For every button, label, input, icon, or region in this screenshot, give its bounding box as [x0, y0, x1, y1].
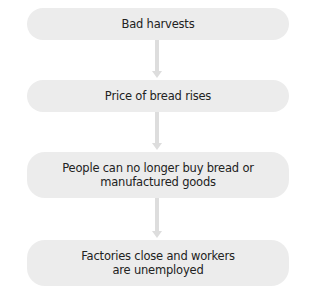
step-label-line2: are unemployed	[112, 263, 203, 277]
step-label-line1: People can no longer buy bread or	[62, 161, 254, 175]
step-price-rises: Price of bread rises	[27, 80, 289, 112]
step-label-line2: manufactured goods	[100, 175, 216, 189]
step-factories-close: Factories close and workers are unemploy…	[27, 240, 289, 286]
step-people-cannot-buy: People can no longer buy bread or manufa…	[27, 152, 289, 198]
step-label-line1: Factories close and workers	[81, 249, 235, 263]
step-label: Price of bread rises	[105, 89, 211, 103]
arrow-down-icon	[152, 40, 162, 78]
step-label: Bad harvests	[122, 17, 195, 31]
step-bad-harvests: Bad harvests	[27, 8, 289, 40]
arrow-down-icon	[152, 198, 162, 238]
arrow-down-icon	[152, 112, 162, 150]
